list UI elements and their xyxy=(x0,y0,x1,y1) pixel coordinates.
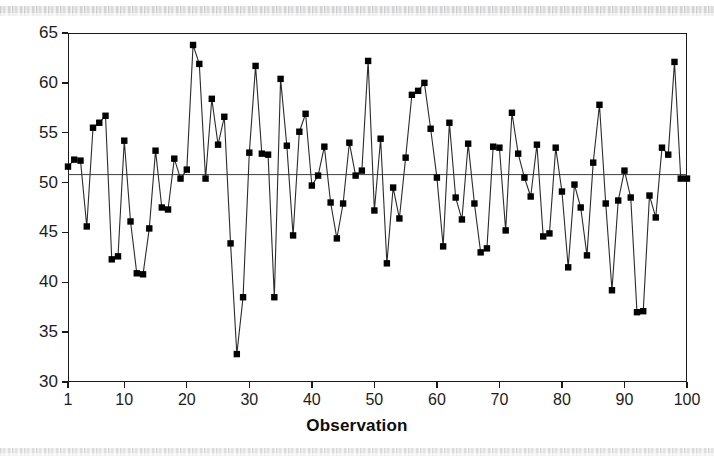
data-point-marker xyxy=(296,129,302,135)
data-point-marker xyxy=(77,157,83,163)
data-point-marker xyxy=(240,294,246,300)
data-point-marker xyxy=(415,88,421,94)
data-point-marker xyxy=(221,114,227,120)
run-chart: 3035404550556065 1102030405060708090100 … xyxy=(0,18,714,438)
data-point-marker xyxy=(402,154,408,160)
data-point-marker xyxy=(190,42,196,48)
data-point-marker xyxy=(371,207,377,213)
data-point-marker xyxy=(559,188,565,194)
data-point-marker xyxy=(215,141,221,147)
data-point-marker xyxy=(590,159,596,165)
data-point-marker xyxy=(196,61,202,67)
data-point-marker xyxy=(321,143,327,149)
data-point-marker xyxy=(209,96,215,102)
data-point-marker xyxy=(184,166,190,172)
data-point-marker xyxy=(646,192,652,198)
x-axis-title: Observation xyxy=(0,416,714,436)
data-point-marker xyxy=(578,204,584,210)
data-point-marker xyxy=(290,232,296,238)
data-point-marker xyxy=(665,151,671,157)
data-point-marker xyxy=(615,197,621,203)
data-point-marker xyxy=(284,142,290,148)
data-point-marker xyxy=(334,235,340,241)
data-point-marker xyxy=(352,172,358,178)
data-point-marker xyxy=(90,125,96,131)
scanned-figure-page: 3035404550556065 1102030405060708090100 … xyxy=(0,0,714,458)
data-point-marker xyxy=(659,144,665,150)
data-point-marker xyxy=(234,351,240,357)
data-point-marker xyxy=(121,137,127,143)
data-point-marker xyxy=(146,225,152,231)
data-point-marker xyxy=(459,216,465,222)
data-point-marker xyxy=(434,174,440,180)
data-point-marker xyxy=(396,215,402,221)
data-point-marker xyxy=(540,233,546,239)
data-point-marker xyxy=(603,200,609,206)
data-point-marker xyxy=(684,175,690,181)
data-point-marker xyxy=(634,309,640,315)
data-point-marker xyxy=(527,193,533,199)
data-point-marker xyxy=(340,200,346,206)
data-point-marker xyxy=(302,111,308,117)
data-point-marker xyxy=(465,140,471,146)
data-point-marker xyxy=(165,206,171,212)
scan-noise-band-top xyxy=(0,6,714,13)
data-point-marker xyxy=(409,92,415,98)
data-point-marker xyxy=(640,308,646,314)
data-point-marker xyxy=(471,200,477,206)
data-point-marker xyxy=(384,260,390,266)
data-point-marker xyxy=(490,143,496,149)
data-point-marker xyxy=(678,175,684,181)
data-point-marker xyxy=(571,181,577,187)
data-point-marker xyxy=(584,252,590,258)
data-point-marker xyxy=(621,167,627,173)
data-point-marker xyxy=(502,227,508,233)
data-point-marker xyxy=(84,223,90,229)
data-point-marker xyxy=(327,199,333,205)
data-point-marker xyxy=(140,271,146,277)
data-point-marker xyxy=(71,156,77,162)
scan-noise-band-bottom xyxy=(0,448,714,453)
data-point-marker xyxy=(477,249,483,255)
data-point-marker xyxy=(521,174,527,180)
data-point-marker xyxy=(365,58,371,64)
data-point-marker xyxy=(609,287,615,293)
data-point-marker xyxy=(509,110,515,116)
data-point-marker xyxy=(628,194,634,200)
data-point-marker xyxy=(390,184,396,190)
data-point-marker xyxy=(421,80,427,86)
data-point-marker xyxy=(277,76,283,82)
data-point-marker xyxy=(202,175,208,181)
data-point-marker xyxy=(359,167,365,173)
data-point-marker xyxy=(159,204,165,210)
data-point-marker xyxy=(565,264,571,270)
data-point-marker xyxy=(346,139,352,145)
data-point-marker xyxy=(115,253,121,259)
data-point-marker xyxy=(496,144,502,150)
data-point-marker xyxy=(515,150,521,156)
series-line xyxy=(68,45,687,354)
data-point-marker xyxy=(446,120,452,126)
data-point-marker xyxy=(252,63,258,69)
data-point-marker xyxy=(484,245,490,251)
data-point-marker xyxy=(134,270,140,276)
data-point-marker xyxy=(171,155,177,161)
data-point-marker xyxy=(109,256,115,262)
data-point-marker xyxy=(452,194,458,200)
data-point-marker xyxy=(377,136,383,142)
data-point-marker xyxy=(127,218,133,224)
data-point-marker xyxy=(259,150,265,156)
data-point-marker xyxy=(553,144,559,150)
data-point-marker xyxy=(653,214,659,220)
data-point-marker xyxy=(546,230,552,236)
series-layer xyxy=(0,18,714,438)
data-point-marker xyxy=(534,141,540,147)
data-point-marker xyxy=(271,294,277,300)
data-point-marker xyxy=(309,182,315,188)
data-point-marker xyxy=(315,172,321,178)
data-point-marker xyxy=(152,147,158,153)
data-point-marker xyxy=(427,126,433,132)
scan-noise-band-top-secondary xyxy=(0,13,714,16)
data-point-marker xyxy=(227,240,233,246)
data-series xyxy=(65,42,690,358)
